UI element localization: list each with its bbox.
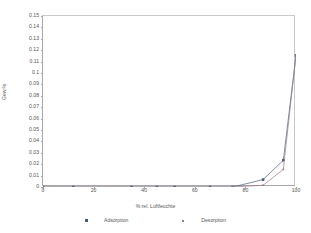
data-point-adsorption [262, 178, 265, 181]
legend-label-desorption: Desorption [201, 218, 226, 223]
y-axis-tick-label: 0.15 [29, 13, 39, 18]
y-axis-tick-mark [41, 164, 44, 165]
y-axis-tick-label: 0.09 [29, 82, 39, 87]
legend-item-desorption: Desorption [182, 218, 226, 223]
y-axis-tick-mark [41, 141, 44, 142]
data-point-desorption [232, 186, 234, 187]
x-axis-title: % rel. Luftfeuchte [0, 204, 311, 209]
legend-marker-desorption-icon [182, 220, 184, 222]
y-axis-tick-label: 0.12 [29, 48, 39, 53]
y-axis-tick-mark [41, 130, 44, 131]
y-axis-tick-label: 0 [36, 184, 39, 189]
y-axis-tick-label: 0.13 [29, 36, 39, 41]
y-axis-tick-mark [41, 153, 44, 154]
legend-label-adsorption: Adsorption [104, 218, 128, 223]
y-axis-tick-mark [41, 39, 44, 40]
chart-legend: Adsorption Desorption [0, 218, 311, 223]
chart-container: Gew.% 00.010.020.030.040.050.060.070.080… [0, 0, 311, 233]
y-axis-tick-mark [41, 119, 44, 120]
y-axis-tick-mark [41, 107, 44, 108]
y-axis-tick-label: 0.06 [29, 116, 39, 121]
y-axis-tick-label: 0.03 [29, 150, 39, 155]
data-point-desorption [283, 169, 285, 171]
y-axis-tick-mark [41, 96, 44, 97]
x-axis-tick-mark [94, 187, 95, 190]
x-axis-tick-mark [43, 187, 44, 190]
legend-marker-adsorption-icon [85, 219, 88, 222]
x-axis-tick-mark [245, 187, 246, 190]
y-axis-title: Gew.% [2, 84, 7, 100]
series-layer [43, 16, 294, 185]
y-axis-tick-mark [41, 50, 44, 51]
y-axis-tick-mark [41, 16, 44, 17]
x-axis-tick-mark [195, 187, 196, 190]
y-axis-tick-label: 0.07 [29, 105, 39, 110]
y-axis-tick-mark [41, 84, 44, 85]
y-axis-tick-label: 0.05 [29, 127, 39, 132]
data-point-desorption [262, 184, 264, 186]
plot-area: 00.010.020.030.040.050.060.070.080.090.1… [42, 15, 295, 186]
data-point-desorption [295, 55, 296, 57]
series-line-desorption [43, 55, 296, 187]
x-axis-tick-mark [144, 187, 145, 190]
y-axis-tick-label: 0.1 [32, 70, 39, 75]
y-axis-tick-label: 0.11 [29, 59, 39, 64]
y-axis-tick-mark [41, 27, 44, 28]
legend-item-adsorption: Adsorption [85, 218, 128, 223]
y-axis-tick-label: 0.04 [29, 139, 39, 144]
y-axis-tick-mark [41, 62, 44, 63]
y-axis-tick-mark [41, 73, 44, 74]
y-axis-tick-mark [41, 176, 44, 177]
y-axis-tick-label: 0.08 [29, 93, 39, 98]
y-axis-tick-label: 0.14 [29, 25, 39, 30]
y-axis-tick-label: 0.01 [29, 173, 39, 178]
series-line-adsorption [43, 55, 296, 187]
y-axis-tick-label: 0.02 [29, 162, 39, 167]
x-axis-tick-mark [296, 187, 297, 190]
